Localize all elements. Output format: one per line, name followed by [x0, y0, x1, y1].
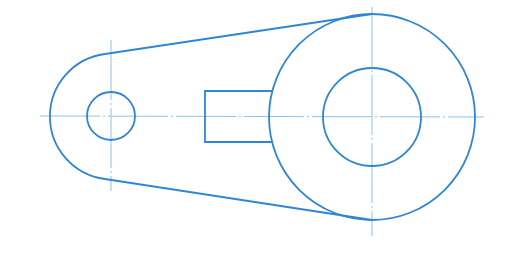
technical-drawing: [0, 0, 510, 265]
bottom-tangent-line: [105, 179, 372, 220]
horizontal-centerline: [40, 116, 484, 117]
top-tangent-line: [105, 14, 372, 54]
